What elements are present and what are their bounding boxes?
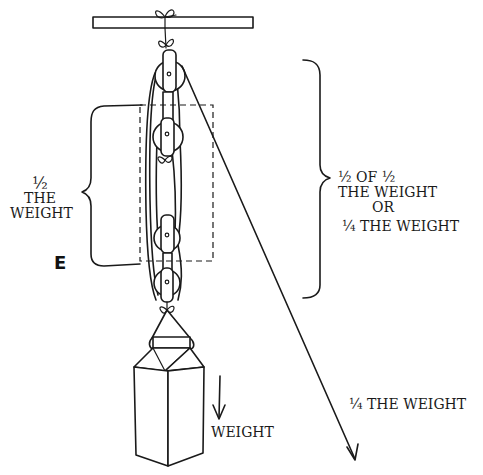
effort-marker-e: E [54, 252, 66, 273]
label-quarter-line3: OR [338, 200, 459, 215]
pulley-upper-middle [153, 118, 183, 163]
label-half-the: THE [10, 191, 70, 206]
weight-carton [134, 337, 204, 466]
label-quarter-line2: THE WEIGHT [338, 185, 459, 200]
left-brace [82, 105, 142, 266]
ceiling-beam [93, 10, 253, 28]
label-quarter-line1: ½ OF ½ [338, 170, 459, 185]
pulley-top [155, 50, 185, 92]
right-brace [303, 60, 330, 298]
top-hanger [159, 28, 174, 48]
label-half-weight-word: WEIGHT [10, 206, 70, 221]
label-quarter-weight: ½ OF ½ THE WEIGHT OR ¼ THE WEIGHT [338, 170, 459, 234]
pulley-bottom [154, 268, 180, 302]
weight-arrow [213, 376, 225, 419]
label-pull-force: ¼ THE WEIGHT [349, 397, 466, 412]
label-quarter-line4: ¼ THE WEIGHT [338, 219, 459, 234]
pull-rope-arrow [182, 66, 358, 460]
label-half-fraction: ½ [10, 176, 70, 191]
label-half-weight: ½ THE WEIGHT [10, 176, 70, 221]
label-load-weight: WEIGHT [211, 425, 274, 440]
